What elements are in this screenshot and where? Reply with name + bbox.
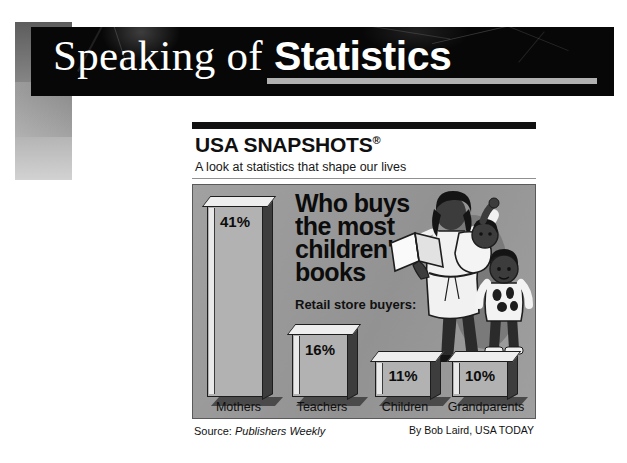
panel-top-rule <box>192 122 536 129</box>
category-label-grandparents: Grandparents <box>438 400 534 414</box>
category-label-teachers: Teachers <box>283 400 361 414</box>
category-label-children: Children <box>367 400 443 414</box>
bar-side-face <box>262 198 273 400</box>
panel-footer: Source: Publishers Weekly By Bob Laird, … <box>192 419 536 441</box>
registered-trademark-icon: ® <box>372 134 380 146</box>
panel-divider-rule <box>192 178 536 179</box>
bar-children: 11% <box>375 360 431 397</box>
bar-grandparents: 10% <box>452 360 508 397</box>
panel-title: USA SNAPSHOTS® <box>195 134 536 156</box>
source-publication-name: Publishers Weekly <box>235 425 325 437</box>
bar-value-label: 16% <box>292 341 348 358</box>
source-text: Source: Publishers Weekly <box>194 425 325 437</box>
bar-value-label: 41% <box>207 213 263 230</box>
book-top-cover <box>370 351 445 362</box>
masthead-title: Speaking of Statistics <box>53 31 451 80</box>
book-top-cover <box>202 196 277 207</box>
book-top-cover <box>447 351 522 362</box>
bar-side-face <box>347 326 358 400</box>
chart-canvas: Who buys the most children's books Retai… <box>192 184 536 419</box>
family-reading-illustration <box>389 187 535 362</box>
book-top-cover <box>287 324 362 335</box>
source-prefix: Source: <box>194 425 235 437</box>
bar-value-label: 10% <box>452 367 508 384</box>
bar-teachers: 16% <box>292 333 348 397</box>
bar-mothers: 41% <box>207 205 263 397</box>
bar-value-label: 11% <box>375 367 431 384</box>
panel-title-text: USA SNAPSHOTS <box>195 133 372 156</box>
masthead-title-light: Speaking of <box>53 32 274 79</box>
category-label-mothers: Mothers <box>201 400 276 414</box>
book-page-edge <box>209 208 215 394</box>
panel-subtitle: A look at statistics that shape our live… <box>195 160 536 174</box>
bar-front-face <box>207 205 263 397</box>
masthead-underline-rule <box>267 78 597 84</box>
masthead-banner: Speaking of Statistics <box>31 27 614 96</box>
credit-text: By Bob Laird, USA TODAY <box>409 424 534 436</box>
usa-snapshots-panel: USA SNAPSHOTS® A look at statistics that… <box>192 122 536 441</box>
masthead-title-bold: Statistics <box>274 33 451 79</box>
